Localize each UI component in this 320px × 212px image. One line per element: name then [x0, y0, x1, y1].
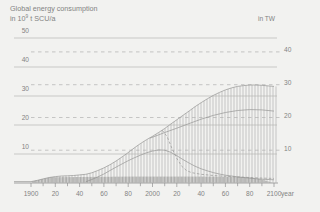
- subtitle-suffix: t SCU/a: [28, 14, 55, 23]
- secondary-projection: [150, 110, 274, 139]
- left-axis-tick-label: 40: [22, 56, 30, 63]
- x-axis-tick-label: 40: [76, 190, 84, 197]
- left-axis-tick-labels: 1020304050: [22, 27, 30, 150]
- right-axis-tick-labels: 10203040: [284, 46, 292, 151]
- plot-area: 1020304010203040501900204060802000204060…: [14, 27, 292, 197]
- x-axis-tick-label: 20: [173, 190, 181, 197]
- hatch-bars: [33, 85, 276, 183]
- right-axis-tick-label: 40: [284, 46, 292, 53]
- x-axis-unit-label: year: [281, 190, 295, 198]
- subtitle-prefix: in 10: [10, 14, 26, 23]
- x-axis-tick-label: 80: [246, 190, 254, 197]
- x-axis-tick-label: 40: [197, 190, 205, 197]
- series-line: [150, 110, 274, 139]
- right-axis-tick-label: 30: [284, 79, 292, 86]
- left-axis-tick-label: 30: [22, 85, 30, 92]
- chart-title: Global energy consumption: [10, 4, 98, 13]
- x-axis-tick-label: 20: [52, 190, 60, 197]
- left-axis-tick-label: 50: [22, 27, 30, 34]
- x-axis-tick-label: 2100: [267, 190, 282, 197]
- right-axis-tick-label: 20: [284, 112, 292, 119]
- total-energy-consumption: [14, 85, 276, 183]
- right-axis-tick-label: 10: [284, 145, 292, 152]
- x-axis-tick-label: 80: [125, 190, 133, 197]
- x-axis-tick-labels: 1900204060802000204060802100: [24, 190, 282, 197]
- x-axis-tick-label: 1900: [24, 190, 39, 197]
- left-gridlines: [14, 38, 277, 154]
- left-axis-tick-label: 20: [22, 114, 30, 121]
- energy-consumption-figure: Global energy consumption in 109 t SCU/a…: [0, 0, 320, 212]
- chart-subtitle: in 109 t SCU/a: [10, 14, 55, 23]
- x-axis-tick-label: 60: [222, 190, 230, 197]
- x-axis-tick-label: 60: [100, 190, 108, 197]
- x-axis: [14, 183, 278, 187]
- energy-chart: Global energy consumption in 109 t SCU/a…: [0, 0, 320, 212]
- x-axis-tick-label: 2000: [145, 190, 160, 197]
- left-axis-tick-label: 10: [22, 143, 30, 150]
- right-axis-unit-label: in TW: [258, 15, 276, 22]
